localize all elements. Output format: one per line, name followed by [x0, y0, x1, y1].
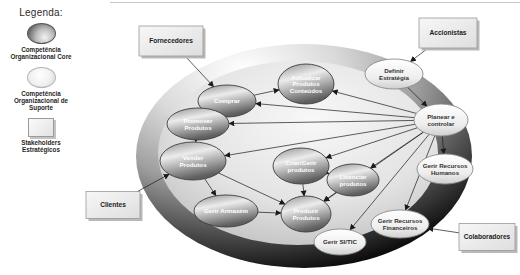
legend-item-stakeholder: Stakeholders Estratégicos	[6, 118, 76, 153]
stakeholder-shape-icon	[28, 118, 54, 137]
legend-title: Legenda:	[6, 7, 76, 18]
node-label: Accionistas	[429, 29, 466, 36]
node-label: Planear econtrolar	[427, 113, 455, 127]
legend-item-label: Competência Organizacional Core	[6, 46, 76, 60]
node-label: Gerir RecursosFinanceiros	[378, 217, 423, 231]
node-colaboradores: Colaboradores	[459, 224, 518, 254]
node-actualizar: ActualizarProdutosConteúdos	[278, 64, 334, 104]
node-grh: Gerir RecursosHumanos	[417, 154, 473, 184]
node-label: ActualizarProdutosConteúdos	[290, 74, 323, 94]
node-label: ProduzirProdutos	[292, 207, 320, 221]
node-promover: PromoverProdutos	[167, 108, 229, 140]
node-label: Colaboradores	[464, 233, 511, 240]
node-fornecedores: Fornecedores	[139, 26, 206, 59]
legend-item-support: Competência Organizacional de Suporte	[6, 67, 76, 111]
node-licenciar: Licenciarprodutos	[327, 164, 379, 196]
edge-colaboradores-grf	[428, 228, 461, 233]
legend-item-label: Stakeholders Estratégicos	[6, 139, 76, 153]
node-sitic: Gerir SI/TIC	[314, 229, 366, 255]
node-criargerir: Criar/Gerirprodutos	[273, 148, 329, 184]
node-definir: DefinirEstratégia	[365, 59, 423, 89]
node-label: PromoverProdutos	[184, 117, 213, 131]
node-label: Comprar	[214, 97, 240, 104]
legend-item-label: Competência Organizacional de Suporte	[6, 90, 76, 111]
node-clientes: Clientes	[86, 192, 143, 222]
node-vender: VenderProdutos	[160, 142, 226, 180]
node-grf: Gerir RecursosFinanceiros	[371, 210, 429, 238]
competency-map-diagram: FornecedoresAccionistasClientesColaborad…	[0, 0, 520, 275]
core-shape-icon	[27, 23, 56, 44]
node-produzir: ProduzirProdutos	[281, 196, 331, 232]
node-label: Gerir Armazém	[204, 207, 249, 214]
support-shape-icon	[27, 67, 56, 88]
legend-item-core: Competência Organizacional Core	[6, 23, 76, 60]
diagram-canvas: Legenda: Competência Organizacional Core…	[0, 0, 520, 275]
node-accionistas: Accionistas	[419, 18, 480, 51]
node-armazem: Gerir Armazém	[194, 195, 258, 227]
node-planear: Planear econtrolar	[414, 104, 468, 136]
node-label: Clientes	[100, 201, 126, 208]
node-label: Licenciarprodutos	[339, 173, 367, 187]
node-label: Fornecedores	[149, 37, 193, 44]
legend-items: Competência Organizacional CoreCompetênc…	[6, 23, 76, 153]
legend: Legenda: Competência Organizacional Core…	[6, 7, 76, 160]
node-label: Criar/Gerirprodutos	[286, 159, 318, 173]
node-label: VenderProdutos	[179, 154, 207, 168]
node-label: Gerir SI/TIC	[323, 238, 358, 245]
